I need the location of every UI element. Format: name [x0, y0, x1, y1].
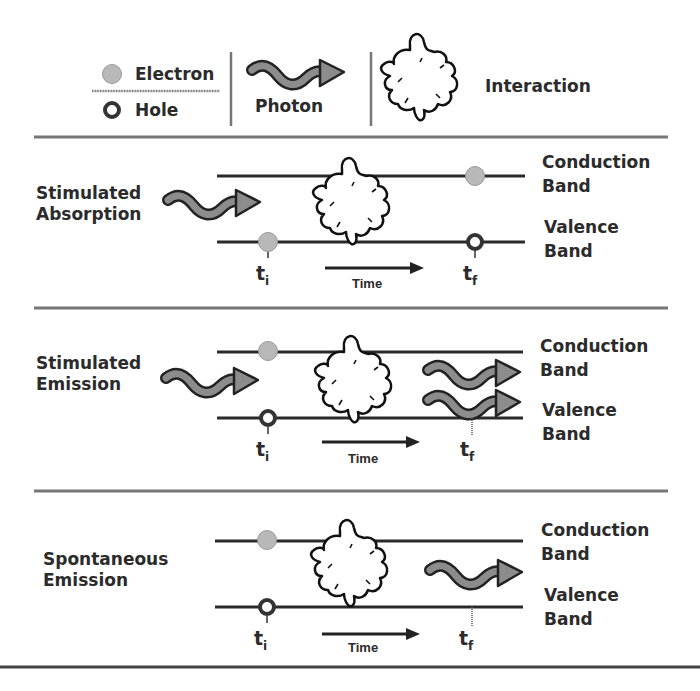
legend-hole-label: Hole [135, 100, 178, 121]
incoming-photon-icon [168, 190, 260, 216]
process-stimulated-emission [166, 336, 523, 448]
legend-electron-label: Electron [135, 64, 214, 85]
legend-interaction-label: Interaction [485, 76, 591, 97]
interaction-icon [315, 336, 391, 422]
legend-photon-icon [252, 60, 344, 86]
incoming-photon-icon [166, 368, 258, 394]
valence-band-label: Valence Band [542, 398, 617, 446]
t-initial-label: ti [256, 438, 269, 464]
time-label: Time [348, 451, 378, 466]
interaction-icon [311, 520, 387, 606]
outgoing-photon-icon [430, 560, 522, 586]
conduction-band-label: Conduction Band [541, 518, 649, 566]
outgoing-photon-icon [428, 390, 520, 416]
process-stimulated-absorption [168, 158, 525, 274]
t-final-label: tf [460, 438, 474, 464]
process-spontaneous-emission [215, 520, 523, 640]
conduction-band-label: Conduction Band [542, 150, 650, 198]
interaction-icon [313, 158, 389, 244]
valence-band-label: Valence Band [544, 583, 619, 631]
outgoing-photon-icon [428, 360, 520, 386]
initial-electron-icon [258, 531, 277, 550]
t-final-label: tf [463, 262, 477, 288]
legend-electron-icon [103, 65, 122, 84]
final-hole-icon [468, 235, 482, 249]
initial-electron-icon [259, 342, 278, 361]
conduction-band-label: Conduction Band [540, 334, 648, 382]
t-initial-label: ti [254, 627, 267, 653]
process-title: Stimulated Absorption [36, 183, 141, 225]
legend-photon-label: Photon [255, 96, 323, 117]
legend-interaction-icon [381, 34, 457, 120]
final-electron-icon [466, 167, 485, 186]
process-title: Spontaneous Emission [43, 549, 168, 591]
initial-hole-icon [260, 600, 274, 614]
time-label: Time [348, 640, 378, 655]
initial-hole-icon [261, 411, 275, 425]
t-initial-label: ti [256, 262, 269, 288]
valence-band-label: Valence Band [544, 215, 619, 263]
time-label: Time [352, 276, 382, 291]
initial-electron-icon [259, 233, 278, 252]
process-title: Stimulated Emission [36, 353, 141, 395]
t-final-label: tf [459, 627, 473, 653]
legend-hole-icon [105, 103, 119, 117]
